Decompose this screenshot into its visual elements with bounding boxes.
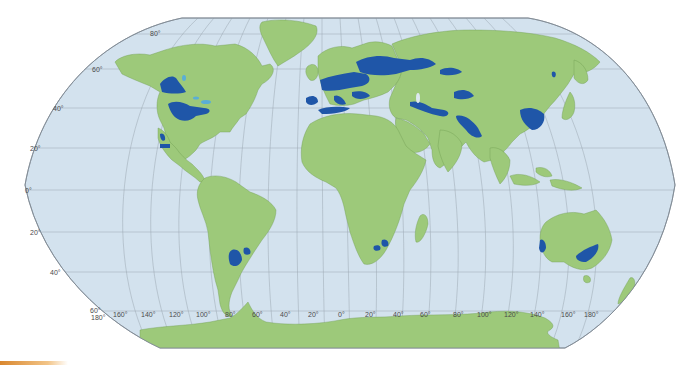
lon-label-40w: 40° <box>280 311 291 318</box>
lon-label-0: 0° <box>338 311 345 318</box>
lat-label-equator: 0° <box>25 187 32 194</box>
lon-label-60w: 60° <box>252 311 263 318</box>
lon-label-160e: 160° <box>561 311 576 318</box>
lon-label-100e: 100° <box>477 311 492 318</box>
continent-australia <box>540 210 612 270</box>
world-map: 80° 60° 40° 20° 0° 20° 40° 60° 180° 160°… <box>0 0 685 370</box>
lon-label-80e: 80° <box>453 311 464 318</box>
lat-label-60n: 60° <box>92 66 103 73</box>
lon-label-140w: 140° <box>141 311 156 318</box>
lat-label-40s: 40° <box>50 269 61 276</box>
lon-label-20w: 20° <box>308 311 319 318</box>
lon-label-20e: 20° <box>365 311 376 318</box>
lon-label-120e: 120° <box>504 311 519 318</box>
lon-label-180w: 180° <box>91 314 106 321</box>
lon-label-100w: 100° <box>196 311 211 318</box>
lon-label-140e: 140° <box>530 311 545 318</box>
lon-label-80w: 80° <box>225 311 236 318</box>
lat-label-20s: 20° <box>30 229 41 236</box>
lon-label-60e: 60° <box>420 311 431 318</box>
lon-label-180e: 180° <box>584 311 599 318</box>
lat-label-40n: 40° <box>53 105 64 112</box>
accent-bar <box>0 361 68 365</box>
lon-label-40e: 40° <box>393 311 404 318</box>
lat-label-80n: 80° <box>150 30 161 37</box>
lat-label-20n: 20° <box>30 145 41 152</box>
lon-label-160w: 160° <box>113 311 128 318</box>
lon-label-120w: 120° <box>169 311 184 318</box>
lat-label-60s: 60° <box>90 307 101 314</box>
